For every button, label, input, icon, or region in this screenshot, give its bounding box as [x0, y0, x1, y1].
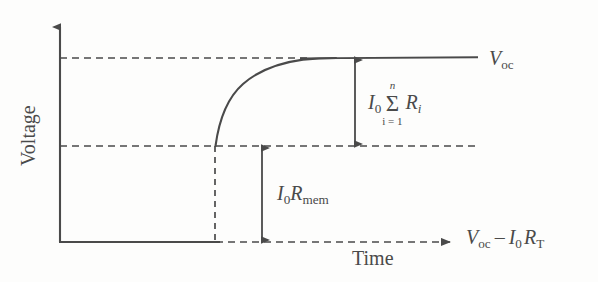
voc-base: V	[489, 47, 501, 69]
voc-minus-base3: R	[522, 226, 536, 248]
i0sum-lead-base: I	[368, 91, 375, 113]
i0sum-trail: Ri	[404, 92, 422, 127]
minus-sign: –	[491, 226, 509, 248]
axis-y-title: Voltage	[18, 105, 38, 166]
i0rmem-base1: I	[277, 182, 284, 204]
i0rmem-sub2: mem	[302, 192, 328, 207]
summation-upper-limit: n	[390, 80, 396, 91]
i0sum-trail-base: R	[406, 91, 418, 113]
voltage-response-curve	[216, 58, 337, 146]
voc-minus-base1: V	[466, 226, 478, 248]
i0-rmem-label: I0Rmem	[277, 183, 329, 206]
summation-lower-limit: i = 1	[382, 116, 402, 127]
summation-operator: n Σ i = 1	[382, 80, 402, 127]
i0rmem-base2: R	[290, 182, 302, 204]
axis-x-title: Time	[352, 248, 394, 268]
voltage-time-figure: Voltage Time Voc Voc–I0RT I0Rmem I0 n Σ …	[0, 0, 598, 282]
i0sum-trail-sub: i	[418, 101, 422, 116]
i0sum-lead: I0	[368, 92, 381, 127]
voc-minus-i0rt-label: Voc–I0RT	[466, 227, 544, 250]
voc-subscript: oc	[501, 57, 513, 72]
voc-minus-sub1: oc	[478, 236, 490, 251]
i0sum-lead-sub: 0	[375, 101, 382, 116]
i0-sum-resistance-label: I0 n Σ i = 1 Ri	[368, 80, 421, 127]
voc-minus-sub3: T	[536, 236, 544, 251]
sigma-icon: Σ	[386, 92, 399, 115]
voc-minus-sub2: 0	[515, 236, 522, 251]
voc-label: Voc	[489, 48, 514, 71]
